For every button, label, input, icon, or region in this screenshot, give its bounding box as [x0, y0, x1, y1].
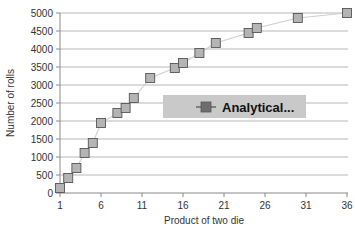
x-tick-label: 16	[177, 200, 189, 211]
data-point-marker	[179, 59, 188, 68]
data-point-marker	[64, 173, 73, 182]
x-axis-title: Product of two die	[164, 215, 244, 226]
data-point-marker	[80, 149, 89, 158]
data-point-marker	[211, 38, 220, 47]
x-tick-label: 1	[57, 200, 63, 211]
x-tick-label: 31	[300, 200, 312, 211]
x-tick-label: 26	[259, 200, 271, 211]
data-point-marker	[170, 64, 179, 73]
y-tick-label: 5000	[31, 8, 54, 19]
data-point-marker	[97, 119, 106, 128]
y-tick-label: 0	[47, 188, 53, 199]
y-tick-label: 1000	[31, 152, 54, 163]
y-axis-title: Number of rolls	[5, 69, 16, 137]
data-point-marker	[244, 29, 253, 38]
legend-entry-label: Analytical...	[222, 100, 294, 115]
x-tick-label: 21	[218, 200, 230, 211]
y-tick-label: 2000	[31, 116, 54, 127]
data-point-marker	[195, 49, 204, 58]
data-point-marker	[113, 109, 122, 118]
x-tick-label: 11	[137, 200, 148, 211]
data-point-marker	[146, 74, 155, 83]
dice-product-cumulative-chart: 5000 4500 4000 3500 3000 2500 2000 1500 …	[0, 0, 355, 230]
data-point-marker	[72, 164, 81, 173]
x-tick-label: 36	[341, 200, 353, 211]
y-tick-label: 4500	[31, 26, 54, 37]
data-point-marker	[293, 14, 302, 23]
chart-legend[interactable]: Analytical...	[163, 95, 306, 118]
x-tick-label: 6	[98, 200, 104, 211]
legend-marker-icon	[201, 102, 211, 112]
data-point-marker	[56, 184, 65, 193]
data-point-marker	[252, 24, 261, 33]
data-point-marker	[343, 9, 352, 18]
y-tick-label: 2500	[31, 98, 54, 109]
y-tick-label: 500	[36, 170, 53, 181]
y-tick-label: 4000	[31, 44, 54, 55]
data-point-marker	[129, 94, 138, 103]
chart-container: 5000 4500 4000 3500 3000 2500 2000 1500 …	[0, 0, 355, 230]
y-tick-label: 3500	[31, 62, 54, 73]
y-tick-label: 1500	[31, 134, 54, 145]
data-point-marker	[88, 139, 97, 148]
data-point-marker	[121, 104, 130, 113]
y-tick-label: 3000	[31, 80, 54, 91]
